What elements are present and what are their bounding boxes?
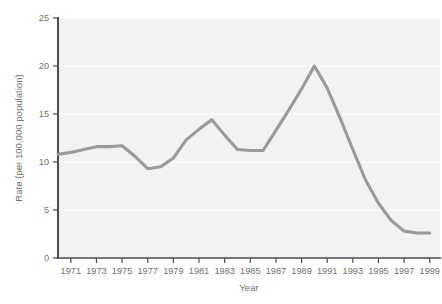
x-tick-label: 1971 bbox=[61, 266, 81, 276]
y-tick-label: 5 bbox=[44, 205, 49, 215]
x-tick-label: 1973 bbox=[86, 266, 106, 276]
x-tick-label: 1975 bbox=[112, 266, 132, 276]
y-axis-title: Rate (per 100,000 population) bbox=[13, 74, 24, 201]
x-tick-label: 1991 bbox=[317, 266, 337, 276]
x-tick-label: 1977 bbox=[138, 266, 158, 276]
x-tick-label: 1989 bbox=[291, 266, 311, 276]
x-tick-label: 1995 bbox=[368, 266, 388, 276]
chart-container: 0510152025 19711973197519771979198119831… bbox=[0, 0, 442, 304]
x-tick-label: 1993 bbox=[343, 266, 363, 276]
x-axis-title: Year bbox=[239, 282, 259, 293]
x-tick-label: 1997 bbox=[394, 266, 414, 276]
x-tick-label: 1999 bbox=[420, 266, 440, 276]
y-tick-label: 0 bbox=[44, 253, 49, 263]
chart-canvas: 0510152025 19711973197519771979198119831… bbox=[0, 0, 442, 304]
x-tick-label: 1983 bbox=[214, 266, 234, 276]
y-tick-label: 10 bbox=[39, 157, 49, 167]
y-tick-label: 25 bbox=[39, 13, 49, 23]
x-tick-label: 1987 bbox=[266, 266, 286, 276]
line-chart-svg: 0510152025 19711973197519771979198119831… bbox=[0, 0, 442, 304]
x-tick-label: 1981 bbox=[189, 266, 209, 276]
plot-area-background bbox=[58, 18, 440, 258]
y-tick-label: 20 bbox=[39, 61, 49, 71]
y-tick-label: 15 bbox=[39, 109, 49, 119]
x-tick-label: 1979 bbox=[163, 266, 183, 276]
x-tick-label: 1985 bbox=[240, 266, 260, 276]
